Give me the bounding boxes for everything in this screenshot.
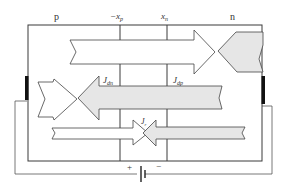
- region-n-label: n: [230, 11, 235, 22]
- jdp-label: Jdp: [173, 75, 183, 86]
- arrow-jr-left: [52, 120, 148, 145]
- battery-icon: [141, 166, 145, 182]
- battery-plus-label: +: [127, 162, 132, 172]
- jr-label: Jr: [141, 117, 147, 127]
- arrow-electron-injection: [218, 32, 263, 72]
- arrow-jdn: [78, 76, 222, 120]
- arrow-hole-injection: [70, 30, 215, 74]
- arrow-jr-right: [143, 120, 245, 146]
- region-p-label: p: [54, 11, 59, 22]
- jdn-label: Jdn: [103, 75, 113, 86]
- contact-right: [262, 76, 266, 104]
- battery-minus-label: −: [156, 161, 161, 171]
- pn-junction-diagram: + − p n −xp xn Jdn Jdp Jr: [0, 0, 287, 191]
- external-wire-right: [145, 106, 272, 174]
- arrow-left-contact: [38, 79, 77, 120]
- boundary-left-label: −xp: [110, 11, 123, 22]
- boundary-right-label: xn: [160, 11, 168, 22]
- contact-left: [25, 76, 29, 100]
